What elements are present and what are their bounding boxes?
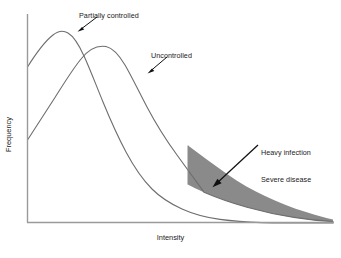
annotation-heavy-infection-line1: Heavy infection xyxy=(261,148,311,157)
annotation-partially-controlled: Partially controlled xyxy=(79,11,139,20)
annotation-severe-disease-line2: Severe disease xyxy=(261,175,311,184)
annotation-heavy-infection-severe-disease: Heavy infection Severe disease xyxy=(261,130,311,202)
x-axis-label: Intensity xyxy=(0,233,341,242)
y-axis-label: Frequency xyxy=(4,103,13,167)
chart-figure: Partially controlled Uncontrolled Heavy … xyxy=(0,0,341,258)
chart-plot-area xyxy=(0,0,341,258)
annotation-uncontrolled: Uncontrolled xyxy=(151,51,192,60)
